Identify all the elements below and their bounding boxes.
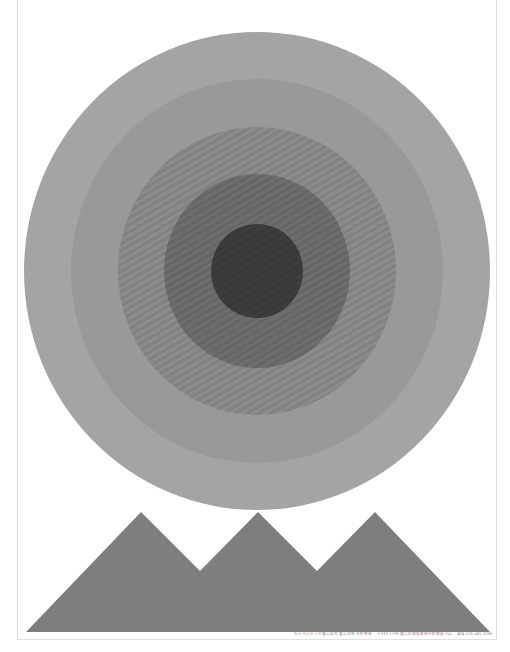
concentric-circles bbox=[24, 32, 490, 510]
ring-core-texture bbox=[211, 224, 303, 318]
poster-artwork bbox=[0, 0, 510, 652]
footer-caption: おんぺいビック富山店内 富山市新庄町番地 〒939-2798 富山県婦負郡婦中町… bbox=[290, 632, 492, 637]
caption-phone: 電話 076-465-2788 bbox=[457, 632, 492, 636]
mountain-triangles bbox=[26, 512, 490, 632]
caption-address: 〒939-2798 富山県婦負郡婦中町速星754 bbox=[377, 632, 452, 636]
poster: おんぺいビック富山店内 富山市新庄町番地 〒939-2798 富山県婦負郡婦中町… bbox=[0, 0, 510, 652]
caption-store: おんぺいビック富山店内 富山市新庄町番地 bbox=[294, 632, 372, 636]
